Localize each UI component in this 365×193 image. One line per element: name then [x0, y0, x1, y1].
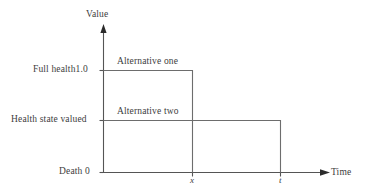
series-line-alternative-one	[104, 71, 193, 173]
diagram-canvas	[0, 0, 365, 193]
series-label-alternative-two: Alternative two	[117, 107, 179, 117]
value-time-diagram: Value Time Full health1.0 Health state v…	[0, 0, 365, 193]
y-axis-label: Value	[86, 10, 108, 20]
x-tick-label-t: t	[279, 176, 282, 185]
y-tick-label-death: Death 0	[59, 167, 90, 177]
x-axis-label: Time	[331, 168, 351, 178]
y-axis-arrowhead	[100, 24, 106, 33]
y-tick-label-health-state: Health state valued	[11, 115, 87, 125]
x-axis-arrowhead	[320, 169, 330, 176]
x-tick-label-x: x	[190, 176, 194, 185]
series-label-alternative-one: Alternative one	[117, 57, 178, 67]
y-tick-label-full-health: Full health1.0	[33, 65, 88, 75]
